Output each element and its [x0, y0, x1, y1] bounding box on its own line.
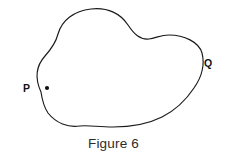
figure-caption: Figure 6	[0, 136, 227, 152]
point-p-marker	[45, 86, 49, 90]
point-q-label: Q	[204, 57, 212, 69]
blob-outline-path	[37, 9, 203, 127]
point-p-label: P	[23, 82, 30, 94]
figure-container: P Q Figure 6	[0, 0, 227, 156]
blob-diagram-svg: P Q	[0, 0, 227, 156]
